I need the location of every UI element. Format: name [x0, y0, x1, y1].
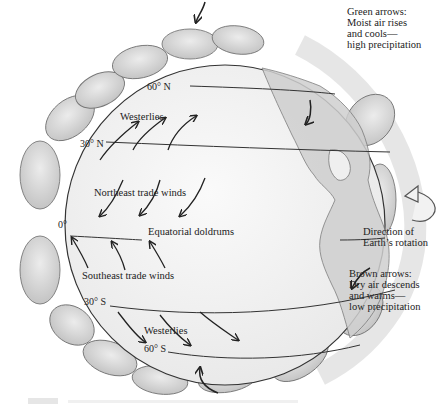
westerlies-north-label: Westerlies [120, 111, 163, 122]
rotation-callout: Direction of Earth’s rotation [363, 226, 428, 248]
green-arrows-callout: Green arrows: Moist air rises and cools—… [347, 6, 421, 50]
circulation-cell [20, 141, 60, 209]
lat-30n-label: 30° N [80, 138, 104, 149]
caption-text-faded [68, 400, 298, 403]
circulation-diagram: 60° N 30° N 0° 30° S 60° S Westerlies No… [0, 0, 446, 411]
descending-arrow-top [196, 2, 205, 22]
lat-60s-label: 60° S [144, 343, 166, 354]
ne-trades-label: Northeast trade winds [94, 187, 186, 198]
circulation-cell [20, 236, 60, 304]
brown-arrows-callout: Brown arrows: Dry air descends and warms… [349, 268, 420, 312]
doldrums-label: Equatorial doldrums [148, 226, 234, 237]
lat-60n-label: 60° N [147, 81, 171, 92]
westerlies-south-label: Westerlies [144, 325, 187, 336]
se-trades-label: Southeast trade winds [82, 270, 174, 281]
lat-30s-label: 30° S [84, 296, 106, 307]
caption-marker [28, 398, 58, 404]
circulation-cell [162, 29, 218, 59]
circulation-cell [210, 23, 265, 58]
lat-0-label: 0° [58, 219, 67, 230]
